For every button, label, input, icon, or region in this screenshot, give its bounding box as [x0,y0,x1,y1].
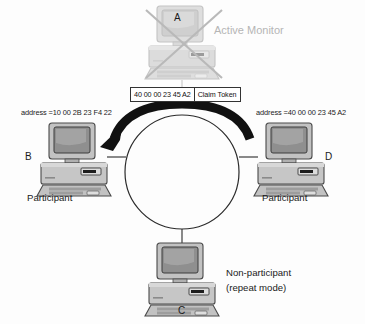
station-b-id-label: B [25,152,32,162]
claim-token-frame[interactable]: 40 00 00 23 45 A2 Claim Token [130,87,241,102]
diagram-canvas: 40 00 00 23 45 A2 Claim Token A Active M… [0,0,365,324]
ring-circle [125,115,239,229]
token-band [114,104,250,139]
station-d[interactable] [254,123,328,196]
frame-address-field: 40 00 00 23 45 A2 [131,88,195,101]
station-b-role-label: Participant [27,193,72,203]
station-d-id-label: D [325,152,332,162]
station-a-id-label: A [174,13,181,23]
station-c-id-label: C [178,306,185,316]
station-d-address-label: address =40 00 00 23 45 A2 [256,109,346,116]
station-d-role-label: Participant [262,193,307,203]
token-arrowhead-icon [100,126,122,151]
station-c-role-label-line2: (repeat mode) [226,283,286,293]
frame-type-field: Claim Token [195,88,240,101]
station-b-address-label: address =10 00 2B 23 F4 22 [21,109,112,116]
station-a-role-label: Active Monitor [214,24,284,36]
diagram-svg [0,0,365,324]
station-b[interactable] [37,123,111,196]
station-c-role-label-line1: Non-participant [226,268,291,278]
